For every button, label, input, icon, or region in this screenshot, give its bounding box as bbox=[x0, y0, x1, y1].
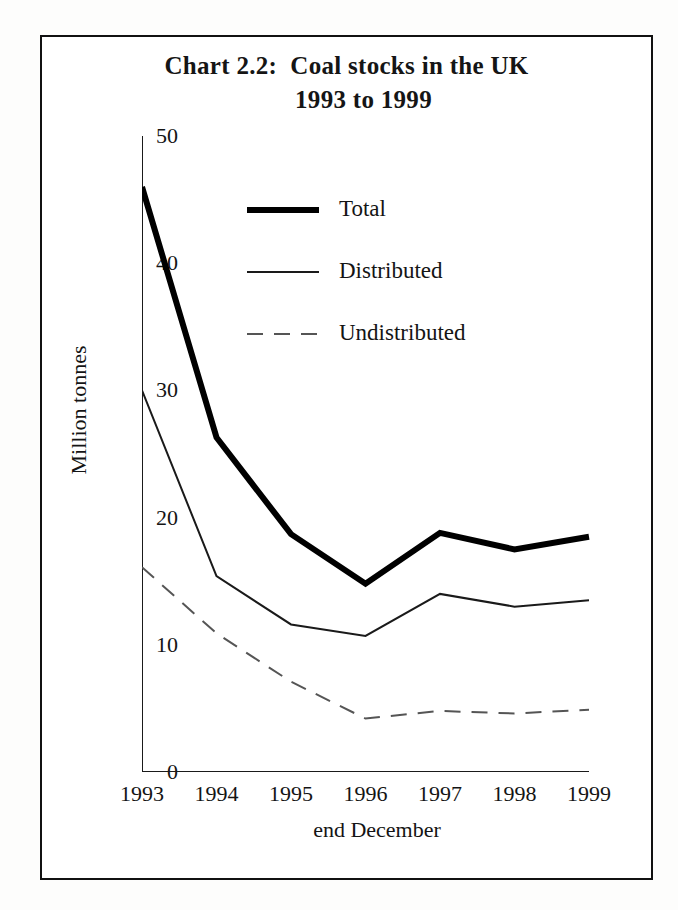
chart-legend: TotalDistributedUndistributed bbox=[247, 177, 547, 363]
legend-item: Undistributed bbox=[247, 301, 547, 363]
chart-title-line-2: 1993 to 1999 bbox=[42, 83, 651, 117]
x-axis-tick-label: 1996 bbox=[344, 782, 388, 806]
legend-item: Distributed bbox=[247, 239, 547, 301]
thin-solid-line-swatch bbox=[247, 264, 319, 276]
legend-label: Undistributed bbox=[339, 321, 466, 344]
x-axis-tick-label: 1995 bbox=[269, 782, 313, 806]
series-line-undistributed bbox=[142, 567, 589, 718]
x-axis-tick-label: 1994 bbox=[195, 782, 239, 806]
dashed-line-swatch bbox=[247, 326, 319, 338]
chart-frame: Chart 2.2: Coal stocks in the UK 1993 to… bbox=[40, 35, 653, 880]
scanned-page: Chart 2.2: Coal stocks in the UK 1993 to… bbox=[0, 0, 678, 910]
chart-title-line-1: Chart 2.2: Coal stocks in the UK bbox=[42, 49, 651, 83]
thick-solid-line-swatch bbox=[247, 202, 319, 214]
x-axis-tick-label: 1999 bbox=[567, 782, 611, 806]
x-axis-tick-label: 1993 bbox=[120, 782, 164, 806]
legend-label: Distributed bbox=[339, 259, 443, 282]
x-axis-title: end December bbox=[142, 817, 612, 843]
x-axis-tick-labels: 1993199419951996199719981999 bbox=[142, 782, 612, 812]
x-axis-tick-label: 1997 bbox=[418, 782, 462, 806]
legend-item: Total bbox=[247, 177, 547, 239]
y-axis-title: Million tonnes bbox=[66, 310, 92, 510]
chart-title: Chart 2.2: Coal stocks in the UK 1993 to… bbox=[42, 49, 651, 117]
legend-label: Total bbox=[339, 197, 386, 220]
x-axis-tick-label: 1998 bbox=[493, 782, 537, 806]
series-line-distributed bbox=[142, 390, 589, 636]
